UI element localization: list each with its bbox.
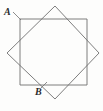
vertex-label-a: A (4, 7, 11, 17)
geometry-figure: A B (0, 0, 103, 111)
figure-background (0, 0, 103, 111)
vertex-label-b: B (35, 87, 42, 97)
figure-canvas (0, 0, 103, 111)
